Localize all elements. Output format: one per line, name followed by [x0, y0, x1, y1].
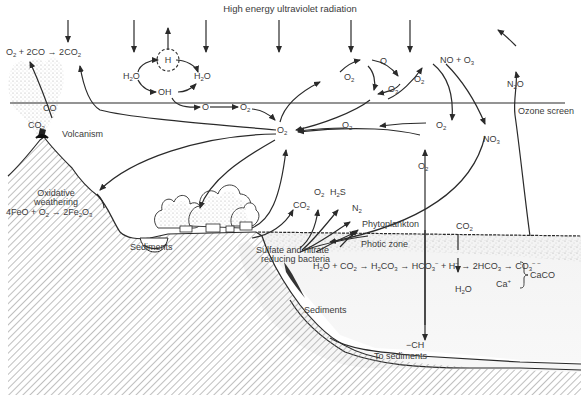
diagram-title: High energy ultraviolet radiation [223, 3, 357, 14]
uv-arrows [68, 20, 410, 52]
label-photic-zone: Photic zone [361, 239, 408, 249]
label-oxygen-ocean: O2 [418, 161, 429, 172]
label-oxygen-right: O2 [436, 120, 447, 131]
label-h2s-land: H2S [330, 187, 346, 198]
label-sediments-slope: Sediments [304, 305, 347, 315]
label-nitrous-oxide: N2O [507, 79, 524, 90]
label-carbonate-equation: H2O + CO2 → H2CO3 → HCO3− + H− → 2HCO3 →… [313, 260, 541, 272]
label-oxygen-mid: O2 [342, 120, 353, 131]
label-atomic-oxygen-upper: O [380, 56, 387, 66]
label-ozone-upper: O3 [388, 84, 399, 95]
label-sediments-basin: Sediments [130, 242, 173, 252]
label-co2-land: CO2 [293, 200, 311, 211]
label-co-oxidation: O2 + 2CO → 2CO2 [6, 47, 82, 58]
label-n2-land: N2 [352, 203, 363, 214]
label-hydrogen: H [165, 55, 172, 65]
label-bacteria-line2: reducing bacteria [261, 254, 330, 264]
label-ozone-screen: Ozone screen [518, 106, 574, 116]
label-volcanism: Volcanism [62, 129, 103, 139]
label-co: CO [43, 103, 57, 113]
label-organic-carbon: −CH [406, 340, 424, 350]
label-oxygen-low: O2 [240, 102, 251, 113]
label-water-left: H2O [123, 71, 140, 82]
label-hydroxyl: OH [158, 87, 172, 97]
label-weathering-line2: weathering [33, 197, 78, 207]
oxygen-cycle-diagram: High energy ultraviolet radiation O2 + 2… [0, 0, 581, 398]
label-oxygen-upper-right: O2 [414, 74, 425, 85]
diagram-canvas: High energy ultraviolet radiation O2 + 2… [0, 0, 581, 398]
label-water-right: H2O [194, 71, 211, 82]
label-phytoplankton: Phytoplankton [362, 219, 419, 229]
vegetation [155, 185, 259, 232]
label-to-sediments: To sediments [374, 351, 428, 361]
label-o2-land: O2 [314, 187, 325, 198]
label-oxygen-hub: O2 [277, 125, 288, 136]
label-nitrate: NO3 [483, 134, 501, 145]
label-co2-ocean: CO2 [456, 221, 474, 232]
label-oxygen-upper-left: O2 [344, 72, 355, 83]
label-atomic-oxygen-low: O [202, 102, 209, 112]
label-no-ozone: NO + O3 [440, 55, 475, 66]
label-calcium-carbonate: CaCO [530, 270, 555, 280]
